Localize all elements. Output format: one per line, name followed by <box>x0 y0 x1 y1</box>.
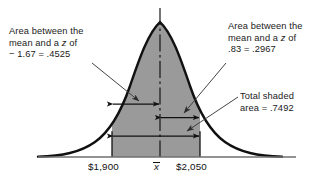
annotation-left-line1: Area between the <box>9 26 83 36</box>
annotation-right-line1: Area between the <box>228 21 302 31</box>
axis-label-mean-text: x <box>153 162 160 172</box>
axis-label-mean: x <box>153 161 160 172</box>
annotation-left-line2-pre: mean and a <box>9 38 62 48</box>
mean-overbar <box>153 162 160 163</box>
annotation-total-shaded: Total shaded area = .7492 <box>240 91 294 114</box>
axis-label-lower-bound: $1,900 <box>88 161 119 172</box>
annotation-left-area: Area between the mean and a z of − 1.67 … <box>9 26 83 61</box>
normal-distribution-figure: Area between the mean and a z of − 1.67 … <box>0 0 325 185</box>
annotation-right-line2-pre: mean and a <box>228 33 281 43</box>
annotation-right-line2-post: of <box>286 33 297 43</box>
annotation-total-line2: area = .7492 <box>240 103 294 113</box>
annotation-right-line3: .83 = .2967 <box>228 44 276 54</box>
axis-label-upper-bound: $2,050 <box>176 161 207 172</box>
annotation-left-line2-post: of <box>67 38 78 48</box>
annotation-total-line1: Total shaded <box>240 91 294 101</box>
annotation-right-area: Area between the mean and a z of .83 = .… <box>228 21 302 56</box>
annotation-left-line3: − 1.67 = .4525 <box>9 49 70 59</box>
